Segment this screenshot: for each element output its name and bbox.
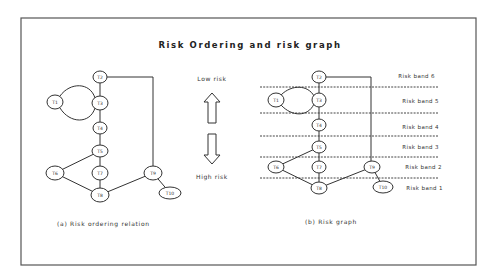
node-t7: T7 (92, 166, 108, 180)
arrow-up-icon (204, 93, 220, 123)
low-risk-label: Low risk (197, 75, 226, 82)
band-label-5: Risk band 5 (402, 98, 439, 104)
edge-t1-t3-top (60, 86, 95, 98)
band-label-6: Risk band 6 (398, 73, 435, 79)
svg-text:T6: T6 (272, 165, 279, 170)
risk-diagram: Risk Ordering and risk graph T2 T1 T3 T4… (0, 0, 498, 278)
node-t3: T3 (92, 96, 108, 110)
band-label-4: Risk band 4 (402, 124, 439, 130)
node-t3: T3 (312, 93, 326, 107)
svg-text:T10: T10 (378, 185, 388, 190)
node-t6: T6 (46, 166, 64, 180)
band-label-3: Risk band 3 (402, 144, 439, 150)
svg-text:T1: T1 (272, 98, 279, 103)
figure-title: Risk Ordering and risk graph (158, 40, 341, 50)
edge-t1-t3-top (281, 87, 314, 96)
node-t6: T6 (268, 161, 284, 173)
edge-t2-t9 (326, 77, 371, 167)
edge-t1-t3-bottom (281, 104, 314, 114)
node-t4: T4 (93, 122, 107, 134)
arrow-down-icon (204, 134, 220, 164)
band-label-1: Risk band 1 (406, 185, 443, 191)
node-t9: T9 (364, 161, 380, 173)
node-t10: T10 (159, 187, 181, 199)
svg-text:T3: T3 (315, 98, 322, 103)
node-t4: T4 (312, 119, 326, 131)
high-risk-label: High risk (196, 173, 228, 181)
svg-text:T10: T10 (165, 191, 175, 196)
risk-direction-legend: Low risk High risk (196, 75, 228, 181)
svg-text:T4: T4 (315, 123, 322, 128)
svg-text:T9: T9 (368, 165, 375, 170)
node-t5: T5 (92, 145, 108, 157)
risk-graph: Risk band 6 Risk band 5 Risk band 4 Risk… (260, 71, 443, 226)
svg-text:T4: T4 (96, 126, 103, 131)
svg-text:T6: T6 (51, 171, 58, 176)
svg-text:T2: T2 (315, 75, 322, 80)
svg-text:T8: T8 (96, 193, 103, 198)
node-t2: T2 (312, 71, 326, 83)
node-t8: T8 (311, 182, 327, 194)
svg-text:T7: T7 (315, 165, 322, 170)
figure-frame (21, 18, 476, 265)
node-t1: T1 (47, 95, 63, 109)
node-t9: T9 (144, 166, 162, 180)
node-t7: T7 (312, 161, 326, 173)
node-t1: T1 (268, 93, 284, 107)
svg-text:T1: T1 (51, 100, 58, 105)
svg-text:T5: T5 (315, 145, 322, 150)
edge-t1-t3-bottom (60, 108, 95, 120)
svg-text:T7: T7 (96, 171, 103, 176)
node-t2: T2 (93, 71, 107, 83)
svg-text:T3: T3 (96, 101, 103, 106)
caption-a: (a) Risk ordering relation (57, 220, 150, 228)
node-t10: T10 (373, 181, 393, 193)
risk-ordering-graph: T2 T1 T3 T4 T5 T6 T7 T8 T9 T10 (a) Risk … (46, 71, 181, 228)
svg-text:T8: T8 (315, 186, 322, 191)
svg-text:T2: T2 (96, 75, 103, 80)
node-t5: T5 (312, 141, 326, 153)
svg-text:T9: T9 (149, 171, 156, 176)
node-t8: T8 (91, 188, 109, 202)
svg-text:T5: T5 (96, 149, 103, 154)
caption-b: (b) Risk graph (305, 218, 357, 226)
edge-t2-t9 (107, 77, 153, 167)
band-label-2: Risk band 2 (405, 164, 442, 170)
